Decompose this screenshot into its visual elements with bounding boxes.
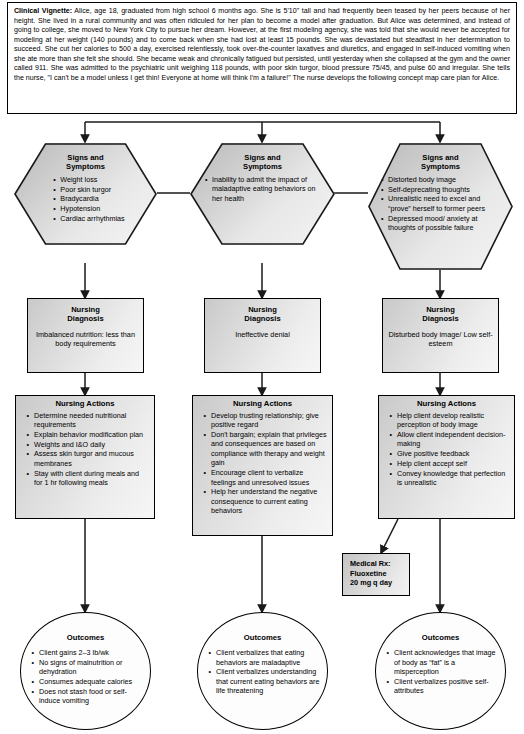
list-item: Give positive feedback <box>397 449 509 459</box>
list-item: Client verbalizes that eating behaviors … <box>216 648 321 667</box>
nursing-actions-list-3: Help client develop realistic perception… <box>379 411 514 488</box>
list-item: Allow client independent decision-making <box>397 430 509 449</box>
nursing-actions-list-2: Develop trusting relationship; give posi… <box>193 411 332 516</box>
list-item: Bradycardia <box>60 194 124 203</box>
signs-symptoms-list-2: Inability to admit the impact of maladap… <box>190 175 335 204</box>
nursing-actions-box-1: Nursing Actions Determine needed nutriti… <box>15 395 155 519</box>
list-item: Encourage client to verbalize feelings a… <box>211 468 327 487</box>
signs-symptoms-title-3: Signs andSymptoms <box>421 153 460 172</box>
outcomes-oval-2: Outcomes Client verbalizes that eating b… <box>197 612 328 730</box>
medical-rx-box: Medical Rx: Fluoxetine 20 mg q day <box>342 553 410 596</box>
list-item: Inability to admit the impact of maladap… <box>212 175 321 203</box>
list-item: Hypotension <box>60 204 124 213</box>
list-item: Does not stash food or self-induce vomit… <box>39 687 144 706</box>
list-item: Client gains 2–3 lb/wk <box>39 648 144 658</box>
list-item: No signs of malnutrition or dehydration <box>39 658 144 677</box>
signs-symptoms-title-2: Signs andSymptoms <box>243 153 282 172</box>
list-item: Determine needed nutritional requirement… <box>34 411 149 430</box>
outcomes-title-1: Outcomes <box>67 633 105 643</box>
list-item: Weight loss <box>60 175 124 184</box>
list-item: Help client develop realistic perception… <box>397 411 509 430</box>
list-item: Client verbalizes understanding that cur… <box>216 667 321 696</box>
nursing-actions-box-2: Nursing Actions Develop trusting relatio… <box>192 395 333 536</box>
list-item: Develop trusting relationship; give posi… <box>211 411 327 430</box>
nursing-diagnosis-title-1: NursingDiagnosis <box>67 305 103 324</box>
nursing-actions-title-1: Nursing Actions <box>16 399 154 409</box>
clinical-vignette-label: Clinical Vignette: <box>14 7 72 15</box>
nursing-diagnosis-box-3: NursingDiagnosis Disturbed body image/ L… <box>382 298 499 373</box>
outcomes-list-1: Client gains 2–3 lb/wk No signs of malnu… <box>21 648 150 706</box>
list-item: Assess skin turgor and mucous membranes <box>34 449 149 468</box>
clinical-vignette-text: Alice, age 18, graduated from high schoo… <box>14 7 510 82</box>
nursing-actions-box-3: Nursing Actions Help client develop real… <box>378 395 515 519</box>
signs-symptoms-hexagon-1: Signs andSymptoms Weight loss Poor skin … <box>14 143 157 245</box>
clinical-vignette-panel: Clinical Vignette: Alice, age 18, gradua… <box>7 2 517 114</box>
list-item: Help her understand the negative consequ… <box>211 487 327 516</box>
medical-rx-line-2: Fluoxetine <box>350 569 403 579</box>
nursing-actions-list-1: Determine needed nutritional requirement… <box>16 411 154 488</box>
list-item: Client acknowledges that image of body a… <box>394 648 499 677</box>
list-item: Cardiac arrhythmias <box>60 214 124 223</box>
list-item: Help client accept self <box>397 459 509 469</box>
nursing-actions-title-3: Nursing Actions <box>379 399 514 409</box>
signs-symptoms-hexagon-2: Signs andSymptoms Inability to admit the… <box>190 143 335 245</box>
outcomes-list-2: Client verbalizes that eating behaviors … <box>198 648 327 696</box>
nursing-diagnosis-text-3: Disturbed body image/ Low self-esteem <box>383 330 498 349</box>
nursing-diagnosis-text-2: Ineffective denial <box>231 330 294 339</box>
signs-symptoms-title-1: Signs andSymptoms <box>66 153 105 172</box>
list-item: Distorted body image <box>388 175 505 184</box>
outcomes-title-3: Outcomes <box>422 633 460 643</box>
outcomes-title-2: Outcomes <box>244 633 282 643</box>
nursing-diagnosis-box-1: NursingDiagnosis Imbalanced nutrition: l… <box>27 298 144 373</box>
signs-symptoms-hexagon-3: Signs andSymptoms Distorted body image S… <box>368 143 513 270</box>
signs-symptoms-list-1: Weight loss Poor skin turgor Bradycardia… <box>40 175 130 224</box>
nursing-diagnosis-box-2: NursingDiagnosis Ineffective denial <box>204 298 321 373</box>
list-item: Convey knowledge that perfection is unre… <box>397 469 509 488</box>
medical-rx-line-3: 20 mg q day <box>350 578 403 588</box>
nursing-diagnosis-text-1: Imbalanced nutrition: less than body req… <box>28 330 143 349</box>
list-item: Unrealistic need to excel and “prove” he… <box>388 194 505 213</box>
list-item: Client verbalizes positive self-attribut… <box>394 677 499 696</box>
list-item: Self-deprecating thoughts <box>388 185 505 194</box>
list-item: Explain behavior modification plan <box>34 430 149 440</box>
nursing-diagnosis-title-2: NursingDiagnosis <box>244 305 280 324</box>
nursing-diagnosis-title-3: NursingDiagnosis <box>422 305 458 324</box>
medical-rx-line-1: Medical Rx: <box>350 559 403 569</box>
nursing-actions-title-2: Nursing Actions <box>193 399 332 409</box>
outcomes-oval-3: Outcomes Client acknowledges that image … <box>375 612 506 730</box>
outcomes-oval-1: Outcomes Client gains 2–3 lb/wk No signs… <box>20 612 151 730</box>
signs-symptoms-list-3: Distorted body image Self-deprecating th… <box>368 175 513 233</box>
outcomes-list-3: Client acknowledges that image of body a… <box>376 648 505 696</box>
list-item: Don't bargain; explain that privileges a… <box>211 430 327 468</box>
list-item: Weights and I&O daily <box>34 440 149 450</box>
list-item: Depressed mood/ anxiety at thoughts of p… <box>388 214 505 233</box>
concept-map-canvas: Clinical Vignette: Alice, age 18, gradua… <box>0 0 524 734</box>
list-item: Stay with client during meals and for 1 … <box>34 469 149 488</box>
list-item: Consumes adequate calories <box>39 677 144 687</box>
list-item: Poor skin turgor <box>60 185 124 194</box>
